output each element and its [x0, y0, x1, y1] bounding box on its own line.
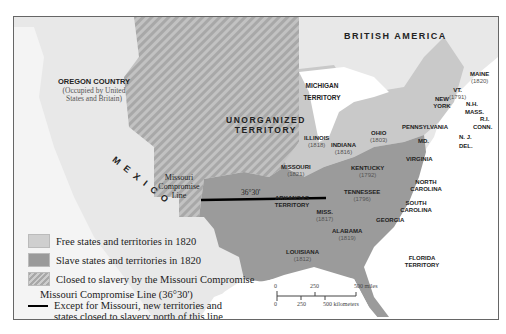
line-swatch	[28, 305, 48, 307]
label-pennsylvania: PENNSYLVANIA	[402, 124, 448, 131]
label-new-jersey: N. J.	[459, 134, 472, 141]
scale-km-0: 0	[274, 301, 277, 308]
scale-km-500: 500 kilometers	[323, 301, 359, 308]
label-delaware: DEL.	[459, 143, 473, 150]
label-illinois: ILLINOIS(1818)	[304, 135, 329, 149]
label-massachusetts: MASS.	[465, 109, 484, 116]
legend-closed: Closed to slavery by the Missouri Compro…	[28, 272, 254, 286]
label-ohio: OHIO(1803)	[370, 130, 387, 144]
label-indiana: INDIANA(1816)	[331, 142, 356, 156]
label-british-america: BRITISH AMERICA	[344, 31, 447, 41]
label-missouri: MISSOURI(1821)	[281, 164, 311, 178]
label-tennessee: TENNESSEE(1796)	[344, 189, 380, 203]
label-rhode-island: R.I.	[480, 116, 489, 123]
scale-miles-250: 250	[310, 283, 319, 290]
legend-line: Missouri Compromise Line (36°30') Except…	[28, 289, 223, 320]
label-new-hampshire: N.H.	[466, 101, 478, 108]
label-new-york: NEW YORK	[430, 96, 454, 110]
label-arkansas-territory: ARKANSAS TERRITORY	[267, 195, 317, 209]
label-connecticut: CONN.	[473, 124, 492, 131]
label-alabama: ALABAMA(1819)	[332, 228, 362, 242]
scale-km-250: 250	[297, 301, 306, 308]
label-georgia: GEORGIA	[376, 217, 404, 224]
label-michigan-territory: MICHIGAN TERRITORY	[292, 80, 352, 105]
label-south-carolina: SOUTH CAROLINA	[396, 200, 436, 214]
label-kentucky: KENTUCKY(1792)	[351, 165, 384, 179]
label-compromise-line: Missouri Compromise Line	[154, 173, 204, 201]
swatch-closed-hatched	[28, 272, 50, 286]
label-louisiana: LOUISIANA(1812)	[286, 249, 319, 263]
label-oregon-country: OREGON COUNTRY (Occupied by United State…	[54, 78, 134, 104]
label-maryland: MD.	[418, 138, 429, 145]
swatch-free	[28, 234, 50, 248]
scale-miles-0: 0	[274, 283, 277, 290]
legend-free: Free states and territories in 1820	[28, 234, 196, 248]
label-maine: MAINE(1820)	[470, 71, 489, 85]
label-virginia: VIRGINIA	[406, 156, 433, 163]
label-compromise-latitude: 36°30'	[241, 189, 260, 198]
label-florida-territory: FLORIDA TERRITORY	[399, 255, 445, 269]
scale-miles-500: 500 miles	[354, 283, 378, 290]
label-unorganized-territory: UNORGANIZED TERRITORY	[226, 116, 306, 136]
swatch-slave	[28, 253, 50, 267]
label-north-carolina: NORTH CAROLINA	[406, 179, 446, 193]
map-frame: BRITISH AMERICA OREGON COUNTRY (Occupied…	[13, 16, 499, 320]
legend-slave: Slave states and territories in 1820	[28, 253, 201, 267]
label-mississippi: MISS.(1817)	[316, 209, 333, 223]
